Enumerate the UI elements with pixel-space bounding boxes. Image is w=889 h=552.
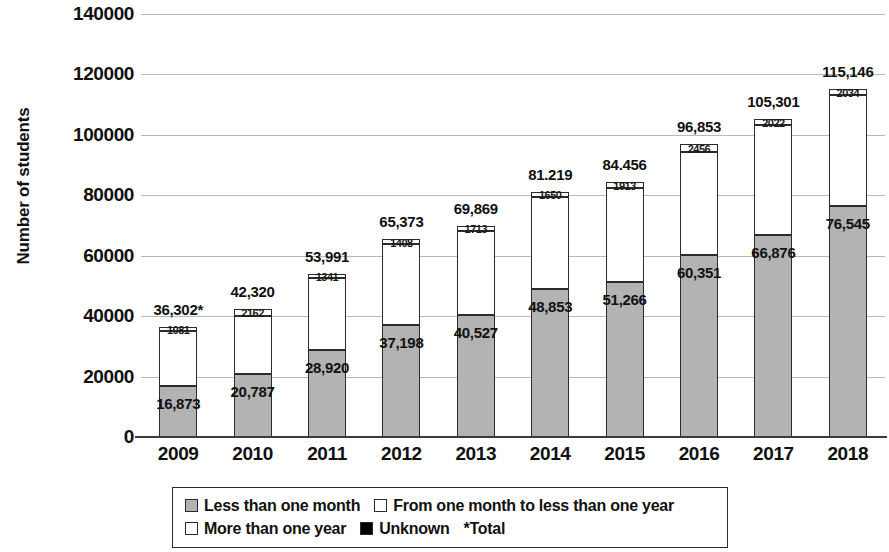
bar-segment-less-than-one-month[interactable] [829, 206, 867, 437]
legend-label: From one month to less than one year [393, 498, 674, 514]
legend-swatch-icon [374, 499, 387, 512]
legend-entry[interactable]: More than one year [185, 521, 346, 537]
bar-value-label-more-than-one-year: 1408 [366, 237, 436, 249]
bar-segment-one-month-to-one-year[interactable] [829, 95, 867, 205]
bar-value-label-more-than-one-year: 2034 [813, 87, 883, 99]
legend-entry[interactable]: Unknown [360, 521, 449, 537]
legend-swatch-icon [360, 522, 373, 535]
bar-group[interactable]: 51,266191384.456 [606, 14, 644, 437]
bar-value-label-less-than-one-month: 51,266 [565, 291, 685, 308]
legend-entry[interactable]: Less than one month [185, 498, 360, 514]
bar-segment-one-month-to-one-year[interactable] [680, 152, 718, 255]
bar-value-label-more-than-one-year: 1913 [590, 180, 660, 192]
bar-segment-less-than-one-month[interactable] [680, 255, 718, 437]
y-axis-tick-label: 140000 [26, 4, 134, 23]
bar-segment-one-month-to-one-year[interactable] [457, 231, 495, 314]
legend-label: Less than one month [204, 498, 360, 514]
bar-value-label-less-than-one-month: 28,920 [267, 359, 387, 376]
bar-total-label: 84.456 [565, 156, 685, 173]
bar-value-label-more-than-one-year: 1341 [292, 271, 362, 283]
bar-segment-one-month-to-one-year[interactable] [308, 278, 346, 350]
bar-segment-one-month-to-one-year[interactable] [754, 125, 792, 235]
bar-segment-one-month-to-one-year[interactable] [606, 188, 644, 283]
y-axis-tick-label: 0 [26, 427, 134, 446]
legend-row: More than one yearUnknown*Total [185, 517, 717, 540]
bar-value-label-less-than-one-month: 66,876 [713, 244, 833, 261]
bar-group[interactable]: 37,198140865,373 [382, 14, 420, 437]
bar-group[interactable]: 16,873108136,302* [159, 14, 197, 437]
bar-total-label: 69,869 [416, 200, 536, 217]
bar-segment-one-month-to-one-year[interactable] [159, 331, 197, 386]
stacked-bar-chart: Number of students 140000120000100000800… [0, 0, 889, 552]
y-axis-tick-label: 100000 [26, 125, 134, 144]
x-axis-line [135, 436, 887, 438]
bar-total-label: 42,320 [193, 283, 313, 300]
bar-segment-one-month-to-one-year[interactable] [531, 197, 569, 290]
bar-total-label: 53,991 [267, 248, 387, 265]
legend-swatch-icon [185, 522, 198, 535]
bar-segment-one-month-to-one-year[interactable] [234, 316, 272, 375]
bar-group[interactable]: 48,853165081.219 [531, 14, 569, 437]
chart-legend: Less than one monthFrom one month to les… [172, 487, 728, 548]
y-axis-tick-label: 120000 [26, 64, 134, 83]
bar-total-label: 115,146 [788, 63, 889, 80]
bar-value-label-less-than-one-month: 60,351 [639, 264, 759, 281]
bar-value-label-less-than-one-month: 76,545 [788, 215, 889, 232]
bar-value-label-more-than-one-year: 2162 [218, 307, 288, 319]
x-axis-tick-labels: 2009201020112012201320142015201620172018 [141, 443, 885, 473]
bar-group[interactable]: 40,527171369,869 [457, 14, 495, 437]
legend-label: Unknown [379, 521, 449, 537]
bar-value-label-more-than-one-year: 2022 [738, 117, 808, 129]
bar-group[interactable]: 60,351245696,853 [680, 14, 718, 437]
bar-value-label-more-than-one-year: 1650 [515, 189, 585, 201]
legend-row: Less than one monthFrom one month to les… [185, 494, 717, 517]
bar-group[interactable]: 66,8762022105,301 [754, 14, 792, 437]
bar-value-label-less-than-one-month: 20,787 [193, 383, 313, 400]
bar-value-label-more-than-one-year: 1713 [441, 223, 511, 235]
y-axis-tick-label: 20000 [26, 367, 134, 386]
plot-area: 16,873108136,302*20,787216242,32028,9201… [141, 14, 885, 437]
bar-group[interactable]: 28,920134153,991 [308, 14, 346, 437]
y-axis-tick-label: 80000 [26, 185, 134, 204]
bar-value-label-more-than-one-year: 1081 [143, 324, 213, 336]
bar-segment-less-than-one-month[interactable] [754, 235, 792, 437]
bar-group[interactable]: 76,5452034115,146 [829, 14, 867, 437]
bar-segment-one-month-to-one-year[interactable] [382, 244, 420, 325]
y-axis-tick-labels: 140000120000100000800006000040000200000 [26, 0, 134, 440]
y-axis-tick-label: 60000 [26, 246, 134, 265]
legend-total-note: *Total [463, 521, 505, 537]
bar-group[interactable]: 20,787216242,320 [234, 14, 272, 437]
x-axis-tick-label: 2018 [803, 443, 889, 465]
legend-label: More than one year [204, 521, 346, 537]
bar-value-label-more-than-one-year: 2456 [664, 143, 734, 155]
bar-value-label-less-than-one-month: 40,527 [416, 324, 536, 341]
legend-swatch-icon [185, 499, 198, 512]
legend-entry[interactable]: From one month to less than one year [374, 498, 674, 514]
